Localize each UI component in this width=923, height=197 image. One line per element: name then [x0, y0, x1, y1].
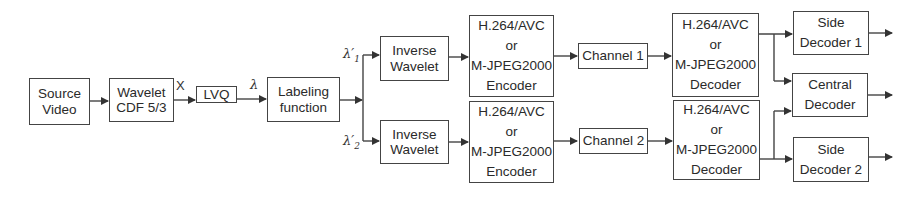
signal-label-lambda2: λ′2	[343, 133, 360, 151]
block-text: Labeling	[278, 84, 329, 100]
block-text: Decoder	[690, 75, 741, 95]
block-text: Side	[817, 13, 844, 33]
block-encoder-1: H.264/AVC or M-JPEG2000 Encoder	[469, 15, 554, 97]
block-text: Video	[42, 102, 76, 118]
block-text: M-JPEG2000	[675, 55, 756, 75]
block-side-decoder-2: Side Decoder 2	[793, 137, 869, 182]
block-text: Wavelet	[117, 85, 165, 101]
signal-label-lambda: λ	[250, 77, 258, 92]
block-text: or	[710, 120, 722, 140]
block-text: M-JPEG2000	[676, 140, 757, 160]
block-text: function	[280, 100, 327, 116]
block-text: Inverse	[392, 127, 436, 143]
block-text: Inverse	[392, 43, 436, 59]
block-text: Decoder 2	[800, 160, 862, 180]
block-text: Side	[817, 140, 844, 160]
block-text: H.264/AVC	[683, 100, 750, 120]
block-text: Decoder 1	[800, 33, 862, 53]
block-text: or	[505, 122, 517, 142]
block-text: Encoder	[486, 162, 536, 182]
block-text: Encoder	[486, 76, 536, 96]
block-text: Channel 2	[583, 133, 645, 149]
block-central-decoder: Central Decoder	[792, 73, 868, 117]
lambda1-subscript: 1	[354, 54, 360, 64]
block-text: H.264/AVC	[478, 16, 545, 36]
block-labeling-function: Labeling function	[267, 77, 340, 122]
block-text: Decoder	[804, 95, 855, 115]
block-text: Wavelet	[390, 59, 438, 75]
block-side-decoder-1: Side Decoder 1	[793, 11, 869, 55]
block-text: or	[505, 36, 517, 56]
block-text: Decoder	[691, 160, 742, 180]
block-text: or	[709, 35, 721, 55]
block-wavelet-cdf: Wavelet CDF 5/3	[109, 78, 174, 122]
block-inverse-wavelet-1: Inverse Wavelet	[380, 36, 449, 81]
block-channel-1: Channel 1	[578, 43, 648, 69]
block-text: Channel 1	[582, 48, 644, 64]
block-lvq: LVQ	[196, 86, 237, 103]
block-channel-2: Channel 2	[579, 128, 648, 154]
block-text: Central	[808, 75, 852, 95]
block-text: H.264/AVC	[478, 102, 545, 122]
signal-label-x: X	[176, 78, 185, 93]
block-text: LVQ	[203, 87, 229, 103]
lambda2-subscript: 2	[354, 141, 360, 151]
block-inverse-wavelet-2: Inverse Wavelet	[380, 120, 449, 164]
block-encoder-2: H.264/AVC or M-JPEG2000 Encoder	[469, 101, 554, 183]
block-text: M-JPEG2000	[471, 142, 552, 162]
block-decoder-1: H.264/AVC or M-JPEG2000 Decoder	[672, 13, 759, 97]
signal-label-lambda1: λ′1	[343, 46, 360, 64]
lambda1-symbol: λ′	[343, 46, 354, 61]
lambda2-symbol: λ′	[343, 133, 354, 148]
block-text: H.264/AVC	[682, 15, 749, 35]
block-text: Wavelet	[390, 142, 438, 158]
block-decoder-2: H.264/AVC or M-JPEG2000 Decoder	[673, 100, 760, 180]
block-text: CDF 5/3	[116, 100, 166, 116]
block-text: Source	[38, 86, 81, 102]
block-text: M-JPEG2000	[471, 56, 552, 76]
block-source-video: Source Video	[29, 78, 90, 125]
